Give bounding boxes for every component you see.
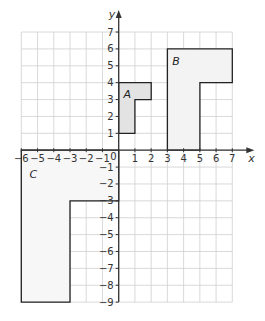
y-tick-label: −8	[99, 280, 114, 291]
x-tick-label: −6	[14, 153, 29, 164]
shape-label-a: A	[123, 88, 132, 101]
y-tick-label: −3	[99, 195, 114, 206]
y-tick-label: 1	[107, 128, 113, 139]
x-tick-label: −3	[63, 153, 78, 164]
shape-label-b: B	[172, 55, 180, 68]
y-tick-label: 6	[107, 43, 113, 54]
x-tick-label: 5	[197, 153, 203, 164]
x-tick-label: −4	[46, 153, 61, 164]
coordinate-grid-figure: ABCxy−6−5−4−3−2−112345677654321−1−2−3−4−…	[0, 0, 265, 321]
y-tick-label: 3	[107, 94, 113, 105]
origin-label: 0	[110, 151, 116, 162]
y-tick-label: −6	[99, 246, 114, 257]
y-tick-label: −4	[99, 212, 114, 223]
x-tick-label: −5	[30, 153, 45, 164]
x-tick-label: 7	[229, 153, 235, 164]
y-tick-label: −2	[99, 178, 114, 189]
y-tick-label: 7	[107, 27, 113, 38]
shape-label-c: C	[29, 168, 37, 181]
x-tick-label: 6	[213, 153, 219, 164]
y-tick-label: 2	[107, 111, 113, 122]
y-tick-label: 4	[107, 77, 113, 88]
y-tick-label: −9	[99, 297, 114, 308]
x-axis-label: x	[247, 152, 255, 165]
shapes	[21, 49, 232, 302]
y-axis-label: y	[108, 8, 116, 21]
y-tick-label: −7	[99, 263, 114, 274]
x-tick-label: 4	[180, 153, 186, 164]
y-tick-label: 5	[107, 60, 113, 71]
y-tick-label: −1	[99, 162, 114, 173]
y-axis-arrow-icon	[116, 10, 122, 18]
x-tick-label: 3	[164, 153, 170, 164]
y-tick-label: −5	[99, 229, 114, 240]
x-tick-label: 2	[148, 153, 154, 164]
x-tick-label: −2	[79, 153, 94, 164]
coordinate-plane: ABCxy−6−5−4−3−2−112345677654321−1−2−3−4−…	[0, 0, 265, 321]
x-tick-label: 1	[132, 153, 138, 164]
